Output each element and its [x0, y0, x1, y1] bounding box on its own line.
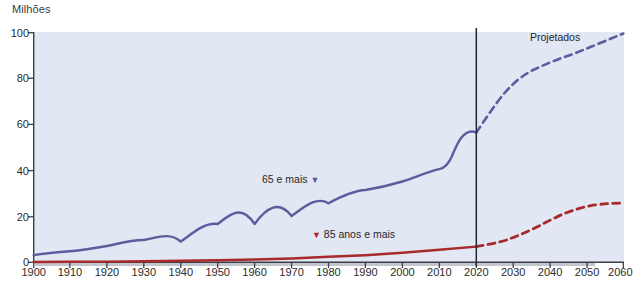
population-line-chart: Milhões [0, 0, 642, 284]
series-65-annotation-text: 65 e mais [262, 173, 308, 185]
series-65-annotation: 65 e mais ▼ [262, 173, 319, 185]
triangle-down-icon: ▼ [312, 230, 321, 240]
y-axis-title: Milhões [12, 3, 51, 15]
projection-annotation: Projetados [530, 31, 580, 43]
series-85-historical [34, 247, 477, 262]
x-tick-label: 2060 [597, 266, 642, 278]
series-85-annotation: ▼ 85 anos e mais [312, 228, 395, 240]
series-65-historical [34, 131, 477, 255]
y-tick-label: 40 [3, 165, 29, 177]
series-85-annotation-text: 85 anos e mais [324, 228, 395, 240]
y-tick-label: 60 [3, 118, 29, 130]
y-tick-label: 20 [3, 211, 29, 223]
series-65-projection [476, 34, 623, 133]
y-tick-label: 100 [3, 27, 29, 39]
series-85-projection [476, 203, 623, 247]
triangle-down-icon: ▼ [310, 175, 319, 185]
y-tick-label: 80 [3, 72, 29, 84]
